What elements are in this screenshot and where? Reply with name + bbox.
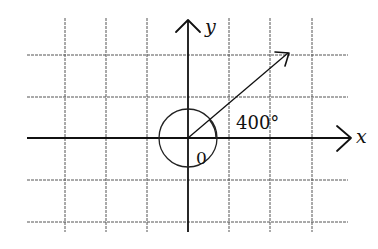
angle-diagram: y x 0 400°	[0, 0, 378, 249]
y-axis	[176, 20, 200, 232]
y-axis-label: y	[204, 15, 216, 37]
x-axis-label: x	[356, 125, 367, 147]
origin-label: 0	[196, 148, 207, 168]
angle-label: 400°	[236, 112, 279, 133]
x-axis	[27, 126, 351, 151]
